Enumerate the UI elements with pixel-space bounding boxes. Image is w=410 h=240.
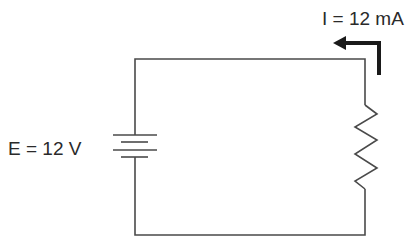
current-label: I = 12 mA <box>322 8 404 29</box>
voltage-label: E = 12 V <box>8 138 82 159</box>
circuit-diagram: E = 12 V I = 12 mA <box>0 0 410 240</box>
wire-left-bottom <box>135 157 365 235</box>
current-arrow-icon <box>333 36 379 75</box>
wire-left-top <box>135 59 365 135</box>
wires <box>135 59 365 235</box>
resistor-icon <box>355 105 377 189</box>
battery-icon <box>113 135 157 157</box>
